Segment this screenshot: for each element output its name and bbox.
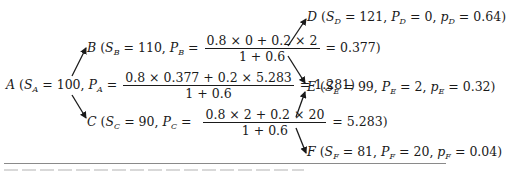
node-a-s-value: 100 bbox=[57, 77, 81, 92]
node-e: E (SE = 99, PE = 2, pE = 0.32) bbox=[307, 80, 495, 94]
node-b-denominator: 1 + 0.6 bbox=[205, 49, 320, 63]
node-f-p-value: 20 bbox=[413, 144, 429, 159]
node-c-label: C bbox=[87, 114, 97, 129]
node-b-fraction: 0.8 × 0 + 0.2 × 2 1 + 0.6 bbox=[205, 34, 320, 63]
node-c-fraction: 0.8 × 2 + 0.2 × 20 1 + 0.6 bbox=[203, 108, 326, 137]
caption-text-placeholder bbox=[4, 169, 304, 171]
node-a-label: A bbox=[6, 77, 15, 92]
node-c-numerator: 0.8 × 2 + 0.2 × 20 bbox=[203, 108, 326, 123]
node-c: C (SC = 90, PC = 0.8 × 2 + 0.2 × 20 1 + … bbox=[87, 108, 388, 137]
node-f-s-value: 81 bbox=[357, 144, 373, 159]
node-e-prob: 0.32 bbox=[463, 79, 491, 94]
node-d-label: D bbox=[307, 9, 317, 24]
node-d-prob: 0.64 bbox=[473, 9, 501, 24]
node-b-numerator: 0.8 × 0 + 0.2 × 2 bbox=[205, 34, 320, 49]
node-b-s-value: 110 bbox=[138, 40, 162, 55]
node-a-fraction: 0.8 × 0.377 + 0.2 × 5.283 1 + 0.6 bbox=[123, 71, 294, 100]
node-b-result: 0.377 bbox=[340, 40, 376, 55]
node-a-numerator: 0.8 × 0.377 + 0.2 × 5.283 bbox=[123, 71, 294, 86]
node-f-label: F bbox=[307, 144, 316, 159]
node-b-label: B bbox=[87, 40, 96, 55]
node-c-denominator: 1 + 0.6 bbox=[203, 123, 326, 137]
caption-divider bbox=[4, 163, 446, 164]
node-e-label: E bbox=[307, 79, 316, 94]
node-a: A (SA = 100, PA = 0.8 × 0.377 + 0.2 × 5.… bbox=[6, 71, 355, 100]
node-c-result: 5.283 bbox=[347, 114, 383, 129]
node-d-s-value: 121 bbox=[359, 9, 383, 24]
node-b: B (SB = 110, PB = 0.8 × 0 + 0.2 × 2 1 + … bbox=[87, 34, 381, 63]
node-f-prob: 0.04 bbox=[469, 144, 497, 159]
node-e-s-value: 99 bbox=[358, 79, 374, 94]
node-f: F (SF = 81, PF = 20, pF = 0.04) bbox=[307, 145, 502, 159]
figure-caption-cropped bbox=[4, 167, 304, 173]
node-a-denominator: 1 + 0.6 bbox=[123, 86, 294, 100]
node-d: D (SD = 121, PD = 0, pD = 0.64) bbox=[307, 10, 506, 24]
node-c-s-value: 90 bbox=[139, 114, 155, 129]
